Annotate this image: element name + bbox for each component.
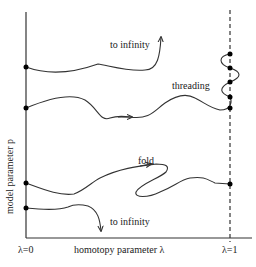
solution-point-dot	[228, 106, 233, 111]
x-start-label: λ=0	[18, 244, 34, 255]
homotopy-diagram: to infinity threading fold to infinity λ…	[0, 0, 256, 267]
label-fold: fold	[138, 155, 154, 166]
solution-point-dot	[228, 95, 233, 100]
label-to-infinity-top: to infinity	[110, 39, 150, 50]
path-to-infinity-bottom	[26, 205, 101, 231]
start-point-dot	[24, 206, 29, 211]
x-end-label: λ=1	[222, 244, 238, 255]
solution-point-dot	[228, 52, 233, 57]
y-axis-label: model parameter p	[4, 139, 15, 214]
start-point-dot	[24, 65, 29, 70]
solution-point-dot	[228, 182, 233, 187]
x-axis-label: homotopy parameter λ	[74, 244, 165, 255]
start-point-dot	[24, 181, 29, 186]
path-fold	[26, 164, 230, 197]
label-to-infinity-bottom: to infinity	[110, 216, 150, 227]
label-threading: threading	[172, 80, 210, 91]
start-point-dot	[24, 106, 29, 111]
solution-point-dot	[228, 80, 233, 85]
solution-point-dot	[228, 66, 233, 71]
